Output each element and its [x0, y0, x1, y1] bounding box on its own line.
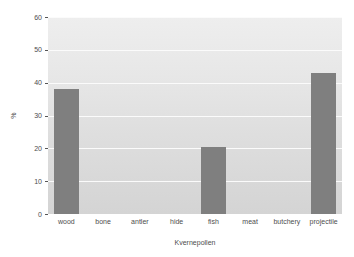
y-axis-tick-label: 20	[16, 145, 42, 152]
plot-area	[48, 17, 342, 214]
y-axis-tick-label: 60	[16, 14, 42, 21]
bars-container	[48, 17, 342, 214]
bar-slot	[122, 17, 159, 214]
bar-slot	[48, 17, 85, 214]
y-axis-tick-label: 0	[16, 211, 42, 218]
y-axis-tick-label: 50	[16, 46, 42, 53]
bar-chart-figure: % 0102030405060 woodboneantlerhidefishme…	[0, 0, 354, 257]
bar	[54, 89, 79, 214]
bar-slot	[269, 17, 306, 214]
y-axis-tick-label: 40	[16, 79, 42, 86]
x-axis-tick-labels: woodboneantlerhidefishmeatbutcheryprojec…	[48, 218, 342, 225]
y-axis-tick-label: 10	[16, 178, 42, 185]
y-axis-tick-mark	[45, 214, 48, 215]
bar-slot	[85, 17, 122, 214]
x-axis-tick-label: butchery	[269, 218, 306, 225]
x-axis-tick-label: hide	[158, 218, 195, 225]
x-axis-tick-label: fish	[195, 218, 232, 225]
bar-slot	[195, 17, 232, 214]
y-axis-tick-label: 30	[16, 112, 42, 119]
bar-slot	[232, 17, 269, 214]
bar-slot	[305, 17, 342, 214]
x-axis-tick-label: bone	[85, 218, 122, 225]
bar-slot	[158, 17, 195, 214]
x-axis-title: Kvernepollen	[48, 239, 342, 246]
bar	[311, 73, 336, 214]
bar	[201, 147, 226, 214]
x-axis-tick-label: wood	[48, 218, 85, 225]
x-axis-tick-label: projectile	[305, 218, 342, 225]
x-axis-tick-label: meat	[232, 218, 269, 225]
x-axis-tick-label: antler	[122, 218, 159, 225]
